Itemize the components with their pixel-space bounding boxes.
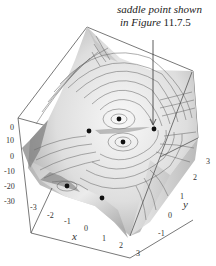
critical-point-saddle-left bbox=[87, 129, 92, 134]
critical-point-lower-right bbox=[100, 196, 105, 201]
svg-text:2: 2 bbox=[119, 241, 123, 250]
annotation-text: saddle point shown in Figure 11.7.5 bbox=[117, 3, 202, 29]
svg-text:-10: -10 bbox=[4, 167, 15, 176]
critical-point-lower-left bbox=[65, 184, 70, 189]
svg-text:-20: -20 bbox=[4, 182, 15, 191]
z-axis: 0 10 0 -10 -20 -30 bbox=[4, 123, 15, 206]
annotation-figure-prefix: in Figure bbox=[120, 16, 161, 28]
critical-point-top-maximum bbox=[117, 117, 122, 122]
surface-plot: 0 10 0 -10 -20 -30 -3 -2 -1 0 1 2 3 x -1… bbox=[0, 0, 216, 266]
svg-text:2: 2 bbox=[193, 173, 197, 182]
y-axis-label: y bbox=[182, 198, 188, 210]
annotation-line-2: in Figure 11.7.5 bbox=[117, 16, 202, 29]
annotation-line-1: saddle point shown bbox=[117, 3, 202, 16]
svg-text:-3: -3 bbox=[30, 203, 37, 212]
critical-point-bottom-maximum bbox=[121, 140, 126, 145]
svg-text:0: 0 bbox=[10, 123, 14, 132]
svg-text:-2: -2 bbox=[47, 211, 54, 220]
svg-text:0: 0 bbox=[10, 152, 14, 161]
svg-text:10: 10 bbox=[6, 136, 14, 145]
critical-point-saddle-right bbox=[152, 127, 157, 132]
svg-text:3: 3 bbox=[136, 249, 140, 258]
svg-text:0: 0 bbox=[84, 224, 88, 233]
annotation-figure-number: 11.7.5 bbox=[164, 16, 191, 28]
svg-text:-1: -1 bbox=[64, 217, 71, 226]
x-axis-label: x bbox=[71, 230, 77, 242]
svg-text:0: 0 bbox=[168, 211, 172, 220]
svg-text:-1: -1 bbox=[158, 229, 165, 238]
surface bbox=[22, 27, 198, 238]
svg-text:3: 3 bbox=[206, 157, 210, 166]
svg-text:1: 1 bbox=[102, 234, 106, 243]
svg-text:-30: -30 bbox=[4, 197, 15, 206]
